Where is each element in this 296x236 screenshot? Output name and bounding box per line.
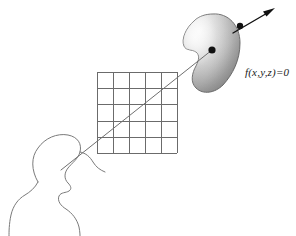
head-brow-detail [80,152,105,172]
head-face-outline [33,135,81,236]
surface-normal-arrow [233,8,275,33]
ray-tracing-diagram: f(x,y,z)=0 [0,0,296,236]
head-back-neck-outline [9,182,38,236]
sample-point-dot [237,23,243,29]
eye-ray-line [61,50,212,170]
viewer-head-silhouette [9,135,105,236]
normal-arrow-shaft [233,12,269,33]
intersection-point-dot [208,46,215,53]
eye-ray [61,50,212,170]
image-plane-grid [97,72,177,153]
figure-canvas: f(x,y,z)=0 [0,0,296,236]
implicit-surface-equation-label: f(x,y,z)=0 [245,66,290,79]
